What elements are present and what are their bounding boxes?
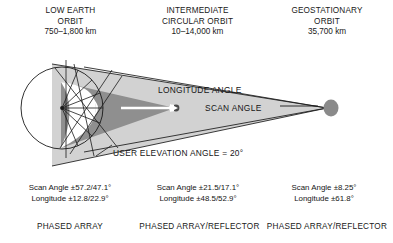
stat-longitude: Longitude ±48.5/52.9°	[132, 193, 264, 204]
header-line-2: CIRCULAR ORBIT	[162, 17, 233, 26]
stats-intermediate-circular-orbit: Scan Angle ±21.5/17.1° Longitude ±48.5/5…	[132, 182, 264, 204]
column-header-intermediate-circular-orbit: INTERMEDIATE CIRCULAR ORBIT 10–14,000 km	[140, 6, 255, 38]
label-longitude-angle: LONGITUDE ANGLE	[158, 85, 242, 95]
geostationary-satellite-marker	[324, 100, 339, 117]
header-line-1: INTERMEDIATE	[166, 6, 228, 15]
label-scan-angle: SCAN ANGLE	[205, 103, 262, 113]
diagram-canvas: LOW EARTH ORBIT 750–1,800 km INTERMEDIAT…	[0, 0, 393, 243]
label-user-elevation-angle: USER ELEVATION ANGLE = 20°	[113, 148, 243, 158]
header-line-2: ORBIT	[314, 17, 340, 26]
header-altitude: 35,700 km	[308, 27, 346, 36]
column-header-low-earth-orbit: LOW EARTH ORBIT 750–1,800 km	[18, 6, 123, 38]
stats-geostationary-orbit: Scan Angle ±8.25° Longitude ±61.8°	[258, 182, 390, 204]
header-altitude: 750–1,800 km	[45, 27, 97, 36]
footer-antenna-geostationary-orbit: PHASED ARRAY/REFLECTOR	[262, 222, 392, 231]
stat-longitude: Longitude ±61.8°	[258, 193, 390, 204]
header-line-1: GEOSTATIONARY	[291, 6, 362, 15]
footer-antenna-intermediate-circular-orbit: PHASED ARRAY/REFLECTOR	[127, 222, 272, 231]
stat-scan-angle: Scan Angle ±21.5/17.1°	[132, 182, 264, 193]
header-altitude: 10–14,000 km	[172, 27, 224, 36]
header-line-1: LOW EARTH	[46, 6, 96, 15]
stat-scan-angle: Scan Angle ±8.25°	[258, 182, 390, 193]
footer-antenna-low-earth-orbit: PHASED ARRAY	[10, 222, 130, 231]
stats-low-earth-orbit: Scan Angle ±57.2/47.1° Longitude ±12.8/2…	[4, 182, 136, 204]
stat-longitude: Longitude ±12.8/22.9°	[4, 193, 136, 204]
header-line-2: ORBIT	[58, 17, 84, 26]
column-header-geostationary-orbit: GEOSTATIONARY ORBIT 35,700 km	[268, 6, 386, 38]
stat-scan-angle: Scan Angle ±57.2/47.1°	[4, 182, 136, 193]
